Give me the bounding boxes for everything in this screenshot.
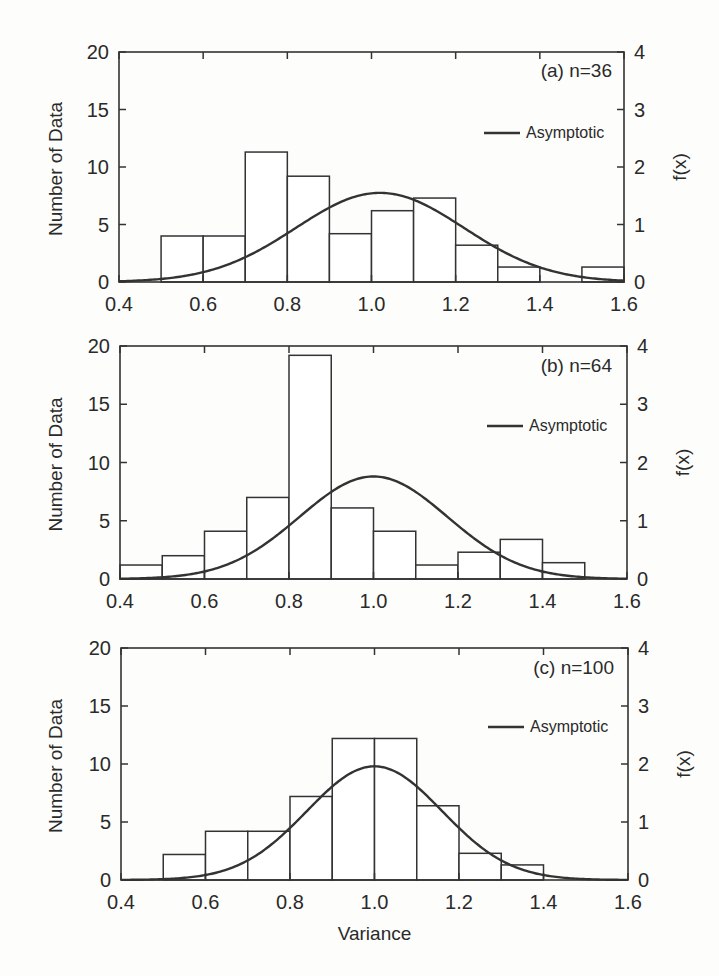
histogram-bar: [329, 234, 371, 282]
histogram-bar: [417, 806, 459, 880]
x-tick-label: 0.4: [107, 891, 135, 913]
histogram-bar: [245, 152, 287, 282]
x-tick-label: 1.6: [613, 590, 641, 612]
x-tick-label: 0.4: [105, 293, 133, 315]
x-tick-label: 1.2: [445, 891, 473, 913]
x-axis-title: Variance: [338, 923, 412, 944]
x-tick-label: 0.6: [192, 891, 220, 913]
x-tick-label: 1.4: [529, 590, 557, 612]
y-axis-left: 05101520: [87, 41, 126, 293]
x-tick-label: 1.2: [442, 293, 470, 315]
y-tick-label: 10: [88, 452, 110, 474]
x-tick-label: 0.8: [273, 293, 301, 315]
histogram-bar: [416, 565, 458, 579]
x-tick-label: 1.6: [614, 891, 642, 913]
histogram-figure: 0.40.60.81.01.21.41.60510152001234Number…: [0, 0, 719, 976]
y-tick-label: 10: [89, 753, 111, 775]
panel-b: 0.40.60.81.01.21.41.60510152001234Number…: [45, 335, 693, 612]
y-right-tick-label: 3: [634, 99, 645, 121]
x-tick-label: 1.4: [526, 293, 554, 315]
y-axis-title: Number of Data: [45, 699, 66, 834]
histogram-bar: [458, 552, 500, 579]
x-tick-label: 1.2: [444, 590, 472, 612]
legend: Asymptotic: [484, 124, 604, 141]
x-tick-label: 0.6: [189, 293, 217, 315]
y-right-tick-label: 1: [637, 510, 648, 532]
panel-label: (c) n=100: [533, 657, 614, 678]
legend: Asymptotic: [487, 417, 607, 434]
y-right-axis-title: f(x): [673, 750, 694, 777]
panel-label: (b) n=64: [541, 355, 613, 376]
y-tick-label: 0: [98, 271, 109, 293]
y-tick-label: 20: [89, 637, 111, 659]
panel-a: 0.40.60.81.01.21.41.60510152001234Number…: [45, 41, 690, 315]
y-right-tick-label: 2: [638, 753, 649, 775]
y-tick-label: 15: [89, 695, 111, 717]
histogram-bar: [374, 531, 416, 579]
y-right-tick-label: 3: [637, 393, 648, 415]
y-tick-label: 20: [88, 335, 110, 357]
y-right-axis-title: f(x): [672, 449, 693, 476]
y-tick-label: 15: [87, 99, 109, 121]
histogram-bar: [372, 211, 414, 282]
panel-label: (a) n=36: [541, 60, 612, 81]
histogram-bar: [247, 497, 289, 579]
y-right-tick-label: 4: [634, 41, 645, 63]
y-right-tick-label: 1: [638, 811, 649, 833]
y-tick-label: 5: [98, 214, 109, 236]
histogram-bars: [120, 355, 585, 579]
x-tick-label: 0.6: [191, 590, 219, 612]
histogram-bar: [456, 245, 498, 282]
y-tick-label: 10: [87, 156, 109, 178]
histogram-bar: [289, 355, 331, 579]
x-tick-label: 1.0: [360, 590, 388, 612]
y-right-axis-title: f(x): [669, 153, 690, 180]
y-axis-right: 01234: [617, 41, 645, 293]
histogram-bar: [290, 796, 332, 880]
x-tick-label: 1.0: [361, 891, 389, 913]
y-tick-label: 5: [99, 510, 110, 532]
x-tick-label: 0.4: [106, 590, 134, 612]
y-tick-label: 5: [100, 811, 111, 833]
legend: Asymptotic: [488, 718, 608, 735]
histogram-bar: [501, 865, 543, 880]
chart-canvas: 0.40.60.81.01.21.41.60510152001234Number…: [0, 0, 719, 976]
y-right-tick-label: 4: [638, 637, 649, 659]
histogram-bar: [161, 236, 203, 282]
histogram-bar: [498, 267, 540, 282]
y-right-tick-label: 1: [634, 214, 645, 236]
legend-label: Asymptotic: [529, 417, 607, 434]
histogram-bar: [332, 738, 374, 880]
y-right-tick-label: 2: [637, 452, 648, 474]
y-right-tick-label: 3: [638, 695, 649, 717]
y-tick-label: 0: [100, 869, 111, 891]
x-tick-label: 0.8: [275, 590, 303, 612]
histogram-bar: [331, 508, 373, 579]
legend-label: Asymptotic: [526, 124, 604, 141]
panel-c: 0.40.60.81.01.21.41.60510152001234Number…: [45, 637, 694, 944]
histogram-bar: [205, 531, 247, 579]
x-tick-label: 0.8: [276, 891, 304, 913]
histogram-bar: [375, 738, 417, 880]
x-tick-label: 1.6: [610, 293, 638, 315]
y-axis-left: 05101520: [89, 637, 128, 891]
y-axis-title: Number of Data: [45, 397, 66, 532]
y-tick-label: 20: [87, 41, 109, 63]
y-right-tick-label: 2: [634, 156, 645, 178]
legend-label: Asymptotic: [530, 718, 608, 735]
y-tick-label: 0: [99, 568, 110, 590]
y-right-tick-label: 4: [637, 335, 648, 357]
y-axis-right: 01234: [620, 335, 648, 590]
histogram-bars: [163, 738, 543, 880]
x-tick-label: 1.0: [358, 293, 386, 315]
y-axis-right: 01234: [621, 637, 649, 891]
y-tick-label: 15: [88, 393, 110, 415]
y-axis-left: 05101520: [88, 335, 127, 590]
x-tick-label: 1.4: [530, 891, 558, 913]
y-axis-title: Number of Data: [45, 102, 66, 237]
y-right-tick-label: 0: [637, 568, 648, 590]
y-right-tick-label: 0: [634, 271, 645, 293]
y-right-tick-label: 0: [638, 869, 649, 891]
